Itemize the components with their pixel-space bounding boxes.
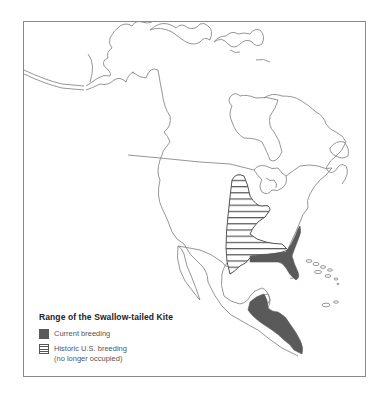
legend-item-current-breeding: Current breeding (39, 329, 199, 339)
legend-label-line2: (no longer occupied) (54, 354, 122, 363)
legend-label-line1: Historic U.S. breeding (54, 344, 127, 353)
map-legend: Range of the Swallow-tailed Kite Current… (39, 312, 199, 368)
legend-label: Current breeding (54, 329, 110, 339)
solid-swatch-icon (39, 329, 49, 339)
baja-peninsula (177, 246, 200, 300)
labrador-coastline (264, 94, 347, 184)
legend-title: Range of the Swallow-tailed Kite (39, 312, 199, 322)
us-canada-border (128, 155, 254, 170)
hudson-bay (229, 94, 282, 161)
arctic-islands (150, 23, 212, 44)
legend-item-historic-breeding: Historic U.S. breeding (no longer occupi… (39, 344, 199, 363)
north-coastline (86, 22, 152, 87)
caribbean-islands (306, 260, 339, 307)
great-lakes (254, 166, 287, 194)
current-breeding-central-america (248, 294, 303, 354)
hatch-swatch-icon (39, 344, 49, 354)
legend-label: Historic U.S. breeding (no longer occupi… (54, 344, 127, 363)
atlantic-coastline (286, 165, 332, 222)
newfoundland (330, 142, 349, 158)
